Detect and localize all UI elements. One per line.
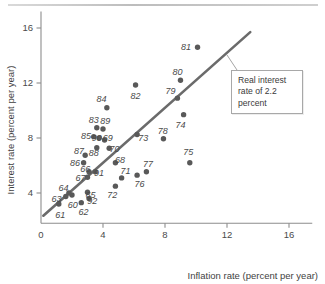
data-point	[133, 82, 138, 87]
data-point	[195, 45, 200, 50]
data-point-label: 71	[120, 166, 130, 176]
data-point-label: 89	[100, 116, 110, 126]
data-point	[161, 136, 166, 141]
data-point-label: 69	[103, 133, 113, 143]
y-tick-label: 12	[22, 77, 33, 88]
data-point-label: 77	[143, 159, 154, 169]
data-point-label: 76	[134, 179, 144, 189]
data-point	[100, 126, 105, 131]
x-tick-label: 0	[38, 229, 43, 240]
y-axis-title: Interest rate (percent per year)	[5, 66, 16, 195]
data-point-label: 81	[181, 42, 191, 52]
data-point-label: 90	[92, 133, 102, 143]
data-point-label: 82	[131, 91, 141, 101]
data-point-label: 91	[94, 168, 104, 178]
y-tick-label: 16	[22, 22, 33, 33]
data-point-label: 79	[165, 86, 175, 96]
callout-annotation: Real interest rate of 2.2 percent	[231, 70, 303, 114]
data-point-label: 87	[74, 146, 85, 156]
data-point-label: 85	[81, 131, 92, 141]
data-point	[187, 160, 192, 165]
data-point-label: 70	[110, 144, 120, 154]
x-axis-title: Inflation rate (percent per year)	[188, 270, 318, 281]
callout-line-3: percent	[238, 98, 297, 109]
data-point-label: 60	[68, 200, 78, 210]
callout-line-2: rate of 2.2	[238, 86, 297, 97]
data-point-label: 72	[107, 190, 117, 200]
data-point	[85, 174, 90, 179]
data-point	[104, 105, 109, 110]
data-point-label: 80	[172, 67, 182, 77]
x-tick-label: 4	[100, 229, 105, 240]
data-point-label: 83	[89, 115, 99, 125]
scatter-plot-canvas: 4812160481216 60616263646566676869707172…	[0, 0, 325, 284]
data-point-label: 68	[115, 155, 125, 165]
data-point-label: 62	[79, 207, 89, 217]
data-point-label: 74	[175, 120, 185, 130]
data-point-label: 67	[76, 173, 87, 183]
data-point	[181, 112, 186, 117]
data-point-label: 86	[70, 158, 80, 168]
data-point-label: 61	[55, 210, 65, 220]
data-point-label: 64	[58, 183, 68, 193]
data-point-label: 88	[89, 148, 99, 158]
data-point-label: 73	[138, 133, 148, 143]
data-point	[144, 169, 149, 174]
x-tick-label: 12	[222, 229, 233, 240]
callout-line-1: Real interest	[238, 75, 297, 86]
y-tick-label: 4	[28, 187, 33, 198]
data-point	[94, 125, 99, 130]
data-point	[178, 78, 183, 83]
y-tick-label: 8	[28, 132, 33, 143]
chart-figure: 4812160481216 60616263646566676869707172…	[0, 0, 325, 284]
data-point	[113, 183, 118, 188]
data-point-label: 84	[96, 94, 106, 104]
callout-leader-line	[227, 55, 237, 70]
trend-line-group	[43, 32, 250, 216]
data-point-label: 63	[51, 194, 61, 204]
data-point	[175, 95, 180, 100]
data-point-label: 78	[158, 126, 168, 136]
data-point-label: 92	[87, 196, 97, 206]
x-tick-label: 8	[162, 229, 167, 240]
x-tick-label: 16	[284, 229, 295, 240]
data-point	[134, 172, 139, 177]
data-point-label: 75	[183, 147, 194, 157]
data-point	[79, 200, 84, 205]
